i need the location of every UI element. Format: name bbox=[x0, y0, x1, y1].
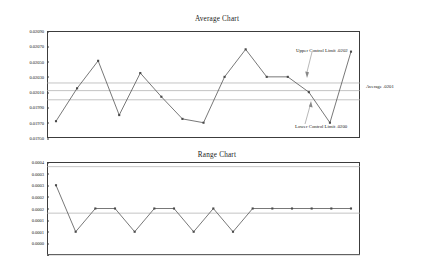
data-point-marker bbox=[181, 118, 183, 120]
range-chart-plot-area: 0.0004 0.0003 0.0003 0.0002 0.0002 0.000… bbox=[47, 162, 360, 255]
lower-control-limit-leader-line bbox=[292, 100, 318, 126]
data-point-marker bbox=[139, 72, 141, 74]
average-ytick: 0.01970 bbox=[29, 120, 47, 125]
data-point-marker bbox=[134, 231, 136, 233]
average-chart-title: Average Chart bbox=[0, 15, 434, 23]
data-point-marker bbox=[266, 76, 268, 78]
average-ytick: 0.02070 bbox=[29, 44, 47, 49]
range-chart-title: Range Chart bbox=[0, 151, 434, 159]
data-point-marker bbox=[271, 207, 273, 209]
data-point-marker bbox=[97, 60, 99, 62]
data-point-marker bbox=[55, 184, 57, 186]
data-point-marker bbox=[245, 48, 247, 50]
range-ytick: 0.0003 bbox=[32, 183, 47, 188]
average-ytick: 0.02030 bbox=[29, 74, 47, 79]
average-ytick: 0.02010 bbox=[29, 90, 47, 95]
data-point-marker bbox=[118, 114, 120, 116]
data-point-marker bbox=[224, 76, 226, 78]
range-ytick: 0.0003 bbox=[32, 171, 47, 176]
range-ytick: 0.0001 bbox=[32, 229, 47, 234]
data-point-marker bbox=[330, 207, 332, 209]
range-ytick: 0.0002 bbox=[32, 206, 47, 211]
data-point-marker bbox=[153, 207, 155, 209]
data-point-marker bbox=[350, 207, 352, 209]
average-ytick: 0.02090 bbox=[29, 29, 47, 34]
range-chart-block: Range Chart 0.0004 0.0003 0.0003 0.0002 … bbox=[0, 145, 434, 268]
average-line-side-label: Average .0201 bbox=[366, 84, 394, 90]
upper-control-limit-leader-line bbox=[296, 52, 326, 80]
data-point-marker bbox=[311, 207, 313, 209]
data-point-marker bbox=[55, 120, 57, 122]
data-point-marker bbox=[75, 231, 77, 233]
data-point-marker bbox=[114, 207, 116, 209]
average-chart-block: Average Chart 0.02090 0.02070 0.02050 0.… bbox=[0, 0, 434, 145]
range-ytick: 0.0000 bbox=[32, 241, 47, 246]
data-point-marker bbox=[94, 207, 96, 209]
data-point-marker bbox=[232, 231, 234, 233]
data-point-marker bbox=[160, 96, 162, 98]
data-point-marker bbox=[287, 76, 289, 78]
average-ytick: 0.02050 bbox=[29, 59, 47, 64]
data-line bbox=[56, 185, 351, 232]
range-ytick: 0.0004 bbox=[32, 160, 47, 165]
data-point-marker bbox=[202, 122, 204, 124]
data-point-marker bbox=[308, 91, 310, 93]
data-point-marker bbox=[76, 87, 78, 89]
data-point-marker bbox=[193, 231, 195, 233]
data-point-marker bbox=[173, 207, 175, 209]
data-point-marker bbox=[212, 207, 214, 209]
data-point-marker bbox=[291, 207, 293, 209]
range-ytick: 0.0002 bbox=[32, 194, 47, 199]
data-point-marker bbox=[252, 207, 254, 209]
average-ytick: 0.01950 bbox=[29, 136, 47, 141]
data-point-marker bbox=[350, 51, 352, 53]
range-chart-series bbox=[47, 162, 360, 255]
average-ytick: 0.01990 bbox=[29, 105, 47, 110]
range-ytick: 0.0001 bbox=[32, 218, 47, 223]
